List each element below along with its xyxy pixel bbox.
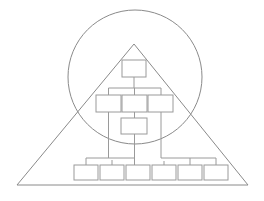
org-chart-boxes — [74, 60, 228, 180]
org-node-box[interactable] — [74, 165, 98, 180]
org-node-box[interactable] — [148, 95, 173, 112]
org-node-box[interactable] — [152, 165, 176, 180]
org-node-box[interactable] — [204, 165, 228, 180]
triangle-shape — [17, 44, 248, 185]
diagram-svg — [0, 0, 264, 201]
org-node-box[interactable] — [96, 95, 121, 112]
org-node-box[interactable] — [121, 118, 147, 134]
org-node-box[interactable] — [122, 95, 147, 112]
org-node-box[interactable] — [122, 60, 146, 77]
org-node-box[interactable] — [178, 165, 202, 180]
diagram-canvas — [0, 0, 264, 201]
org-node-box[interactable] — [100, 165, 124, 180]
org-node-box[interactable] — [126, 165, 150, 180]
